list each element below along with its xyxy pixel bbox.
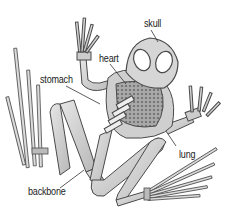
- left-foot-toes: [6, 48, 48, 168]
- label-stomach: stomach: [40, 75, 73, 85]
- label-lung: lung: [179, 150, 195, 160]
- lung-leader: [168, 134, 176, 146]
- label-skull: skull: [144, 19, 161, 29]
- label-backbone: backbone: [28, 187, 66, 197]
- label-heart: heart: [99, 54, 119, 64]
- frog-skeleton-diagram: skull heart stomach lung backbone: [0, 0, 242, 223]
